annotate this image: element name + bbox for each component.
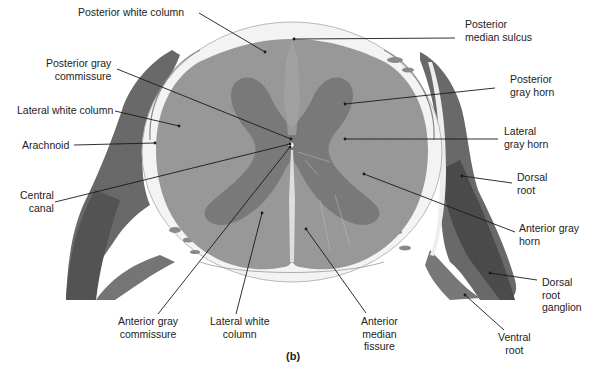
- leader-dot-posterior-median-sulcus: [293, 38, 296, 41]
- leader-dot-anterior-gray-horn: [363, 173, 366, 176]
- label-lateral-white-column-left: Lateral white column: [17, 104, 113, 117]
- label-anterior-median-fissure: Anterior median fissure: [361, 315, 398, 353]
- leader-dot-lateral-white-column-bottom: [261, 212, 264, 215]
- leader-dot-posterior-gray-horn: [344, 103, 347, 106]
- label-anterior-gray-commissure: Anterior gray commissure: [118, 315, 178, 340]
- label-posterior-median-sulcus: Posterior median sulcus: [465, 18, 532, 43]
- leader-dot-dorsal-root: [461, 175, 464, 178]
- label-arachnoid: Arachnoid: [22, 139, 69, 152]
- leader-dot-anterior-median-fissure: [305, 228, 308, 231]
- leader-dot-central-canal: [289, 143, 292, 146]
- spinal-cord-figure: Posterior white column Posterior median …: [0, 0, 595, 378]
- leader-dot-posterior-gray-commissure: [290, 138, 293, 141]
- leader-dot-lateral-white-column-left: [178, 125, 181, 128]
- leader-dot-ventral-root: [464, 294, 467, 297]
- panel-label: (b): [286, 350, 300, 362]
- spinal-cord: [156, 39, 428, 269]
- label-dorsal-root-ganglion: Dorsal root ganglion: [542, 276, 582, 314]
- label-posterior-white-column: Posterior white column: [78, 6, 184, 19]
- label-ventral-root: Ventral root: [498, 331, 531, 356]
- label-lateral-white-column-bottom: Lateral white column: [210, 315, 270, 340]
- leader-dot-arachnoid: [154, 142, 157, 145]
- label-central-canal: Central canal: [20, 189, 54, 214]
- leader-dot-lateral-gray-horn: [344, 138, 347, 141]
- leader-dot-posterior-white-column: [264, 51, 267, 54]
- label-lateral-gray-horn: Lateral gray horn: [504, 125, 548, 150]
- label-posterior-gray-commissure: Posterior gray commissure: [46, 57, 111, 82]
- leader-dot-dorsal-root-ganglion: [489, 272, 492, 275]
- leader-dot-anterior-gray-commissure: [289, 146, 292, 149]
- label-posterior-gray-horn: Posterior gray horn: [510, 73, 554, 98]
- label-anterior-gray-horn: Anterior gray horn: [519, 222, 579, 247]
- leader-line-ventral-root: [465, 295, 504, 330]
- label-dorsal-root: Dorsal root: [517, 171, 547, 196]
